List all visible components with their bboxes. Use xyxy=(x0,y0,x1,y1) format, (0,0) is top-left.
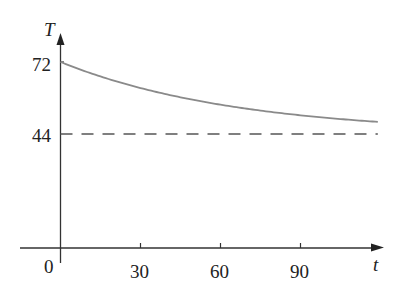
y-tick-label-72: 72 xyxy=(32,55,51,74)
x-ticks xyxy=(141,243,301,248)
cooling-curve-chart xyxy=(0,0,405,303)
x-tick-label-90: 90 xyxy=(290,262,309,281)
x-tick-label-60: 60 xyxy=(210,262,229,281)
y-axis-label: T xyxy=(44,20,55,39)
origin-label: 0 xyxy=(44,257,54,276)
y-tick-label-44: 44 xyxy=(32,126,51,145)
x-axis-label: t xyxy=(373,255,378,274)
x-axis-arrow-icon xyxy=(371,244,384,252)
x-tick-label-30: 30 xyxy=(130,262,149,281)
y-axis-arrow-icon xyxy=(57,33,65,45)
cooling-curve xyxy=(61,62,378,122)
